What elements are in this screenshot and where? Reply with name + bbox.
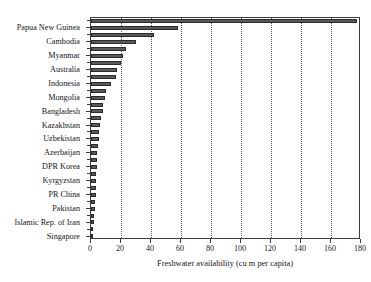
bar-row	[91, 144, 360, 148]
y-axis-tick-minor	[87, 76, 90, 77]
y-axis-tick-minor	[87, 90, 90, 91]
y-axis-tick-minor	[87, 145, 90, 146]
y-axis-tick-major	[86, 194, 90, 195]
bar	[91, 96, 105, 100]
bar-row	[91, 137, 360, 141]
x-axis-tick	[300, 239, 301, 243]
bar	[91, 158, 97, 162]
y-axis-tick-label: Australia	[50, 65, 80, 74]
bar-row	[91, 186, 360, 190]
y-axis-tick-major	[86, 222, 90, 223]
bar-row	[91, 47, 360, 51]
bar-row	[91, 165, 360, 169]
x-axis-tick-label: 160	[324, 244, 336, 253]
y-axis-tick-label: Papua New Guinea	[17, 23, 80, 32]
bar-row	[91, 116, 360, 120]
x-axis-tick-label: 180	[354, 244, 366, 253]
x-axis-tick-label: 80	[206, 244, 214, 253]
x-axis-tick-label: 60	[176, 244, 184, 253]
y-axis-tick-major	[86, 83, 90, 84]
bar	[91, 89, 106, 93]
x-axis-tick	[180, 239, 181, 243]
bar-row	[91, 61, 360, 65]
y-axis-tick-minor	[87, 104, 90, 105]
bar	[91, 214, 94, 218]
y-axis-tick-label: Mongolia	[48, 92, 80, 101]
x-axis-tick	[150, 239, 151, 243]
y-axis-tick-major	[86, 69, 90, 70]
bar	[91, 54, 123, 58]
bar	[91, 179, 96, 183]
x-axis-tick-label: 120	[264, 244, 276, 253]
bar-row	[91, 220, 360, 224]
bar	[91, 123, 100, 127]
bar	[91, 61, 121, 65]
y-axis-tick-label: Bangladesh	[42, 106, 80, 115]
bar-row	[91, 96, 360, 100]
bar	[91, 172, 96, 176]
bar	[91, 234, 93, 238]
y-axis-tick-minor	[87, 173, 90, 174]
bar-row	[91, 54, 360, 58]
y-axis-tick-major	[86, 111, 90, 112]
x-axis-title: Freshwater availability (cu m per capita…	[90, 259, 360, 269]
x-axis-tick	[240, 239, 241, 243]
y-axis-tick-label: Pakistan	[52, 203, 80, 212]
y-axis-tick-label: PR China	[48, 189, 80, 198]
bar	[91, 200, 95, 204]
x-axis-tick-label: 40	[146, 244, 154, 253]
x-axis-tick-label: 0	[88, 244, 92, 253]
y-axis-tick-minor	[87, 229, 90, 230]
bar-row	[91, 207, 360, 211]
bar	[91, 26, 178, 30]
bar	[91, 19, 357, 23]
bar	[91, 33, 154, 37]
bar	[91, 137, 99, 141]
y-axis-tick-minor	[87, 34, 90, 35]
y-axis-tick-major	[86, 55, 90, 56]
y-axis-tick-label: Singapore	[47, 231, 80, 240]
y-axis-tick-major	[86, 166, 90, 167]
y-axis-tick-label: Kazakhstan	[42, 120, 80, 129]
y-axis-tick-minor	[87, 118, 90, 119]
bar-row	[91, 179, 360, 183]
bar	[91, 186, 96, 190]
x-axis-tick	[330, 239, 331, 243]
y-axis-tick-minor	[87, 187, 90, 188]
bar	[91, 151, 97, 155]
y-axis-tick-minor	[87, 20, 90, 21]
y-axis: SingaporeIslamic Rep. of IranPakistanPR …	[0, 17, 86, 239]
x-axis-tick	[270, 239, 271, 243]
bar-row	[91, 109, 360, 113]
bar	[91, 193, 96, 197]
bar-row	[91, 214, 360, 218]
bar	[91, 130, 99, 134]
bar-row	[91, 26, 360, 30]
x-axis-tick-label: 100	[234, 244, 246, 253]
bar-row	[91, 130, 360, 134]
bar	[91, 144, 98, 148]
y-axis-tick-label: Myanmar	[48, 51, 80, 60]
bar-row	[91, 200, 360, 204]
bar-row	[91, 19, 360, 23]
y-axis-tick-major	[86, 138, 90, 139]
y-axis-tick-label: Islamic Rep. of Iran	[15, 217, 80, 226]
bar	[91, 75, 116, 79]
bar-row	[91, 75, 360, 79]
bar-row	[91, 158, 360, 162]
y-axis-tick-minor	[87, 48, 90, 49]
y-axis-tick-minor	[87, 131, 90, 132]
bar-row	[91, 227, 360, 231]
bar	[91, 109, 103, 113]
x-axis-tick	[120, 239, 121, 243]
bar-row	[91, 82, 360, 86]
y-axis-tick-minor	[87, 159, 90, 160]
bar	[91, 82, 111, 86]
bar-row	[91, 103, 360, 107]
x-axis-tick	[90, 239, 91, 243]
bar-row	[91, 151, 360, 155]
y-axis-tick-label: DPR Korea	[42, 162, 80, 171]
bar	[91, 116, 101, 120]
bar-row	[91, 193, 360, 197]
y-axis-tick-major	[86, 236, 90, 237]
